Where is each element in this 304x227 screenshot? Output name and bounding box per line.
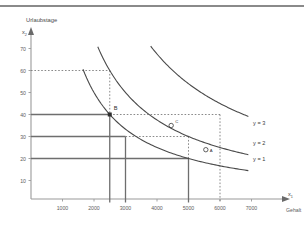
x-tick-label: 4000 <box>151 205 163 211</box>
y-tick-label: 30 <box>20 134 26 140</box>
x-tick-label: 1000 <box>57 205 69 211</box>
chart-plot: 1000200030004000500060007000102030405060… <box>0 0 304 227</box>
y-tick-label: 70 <box>20 46 26 52</box>
x-tick-label: 6000 <box>214 205 226 211</box>
y-axis-symbol: x2 <box>22 29 27 37</box>
x-tick-label: 7000 <box>246 205 258 211</box>
curve-y=1 <box>83 69 248 170</box>
curve-label-y=3: y = 3 <box>253 120 265 126</box>
y-tick-label: 40 <box>20 112 26 118</box>
curve-y=3 <box>151 46 249 116</box>
curve-label-y=2: y = 2 <box>253 140 265 146</box>
chart-title-urlaubstage: Urlaubstage <box>26 17 57 23</box>
point-marker-B <box>108 113 112 117</box>
y-axis-arrow-icon <box>28 27 34 35</box>
x-tick-label: 2000 <box>88 205 100 211</box>
curve-y=2 <box>98 47 249 155</box>
point-marker-C <box>169 123 173 127</box>
curve-label-y=1: y = 1 <box>253 156 265 162</box>
x-axis-title-gehalt: Gehalt <box>286 207 302 213</box>
top-border-band <box>0 5 304 7</box>
x-axis-symbol: x1 <box>288 191 293 199</box>
y-tick-label: 10 <box>20 178 26 184</box>
y-tick-label: 20 <box>20 156 26 162</box>
x-tick-label: 5000 <box>183 205 195 211</box>
y-tick-label: 60 <box>20 68 26 74</box>
point-marker-A <box>204 148 208 152</box>
figure-canvas: 1000200030004000500060007000102030405060… <box>0 0 304 227</box>
x-tick-label: 3000 <box>120 205 132 211</box>
point-label-C: C <box>175 119 178 124</box>
y-tick-label: 50 <box>20 90 26 96</box>
point-label-B: B <box>114 105 118 111</box>
y-axis-subscript: 2 <box>25 33 27 37</box>
x-axis-subscript: 1 <box>291 195 293 199</box>
point-label-A: A <box>210 148 213 153</box>
